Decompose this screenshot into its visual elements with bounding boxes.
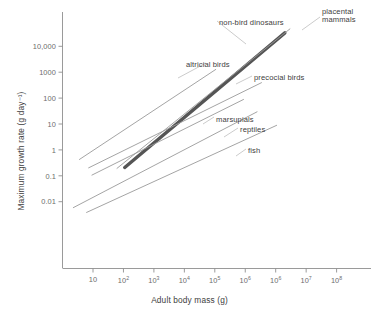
y-tick-label: 100 — [43, 94, 56, 103]
series-line — [73, 112, 257, 208]
series-line — [125, 33, 285, 168]
label-leader-lines — [178, 17, 320, 156]
series-lines — [73, 29, 290, 213]
growth-rate-vs-body-mass-chart — [0, 0, 379, 318]
y-tick-label: 10,000 — [33, 42, 56, 51]
series-line — [117, 29, 291, 169]
label-leader-line — [236, 76, 252, 84]
series-label: fish — [248, 147, 260, 156]
x-axis-title: Adult body mass (g) — [0, 295, 379, 305]
series-label: mammals — [322, 16, 356, 25]
series-label: reptiles — [240, 126, 265, 135]
y-tick-label: 0.1 — [45, 172, 56, 181]
label-leader-line — [203, 117, 214, 124]
y-tick-label: 0.01 — [41, 197, 56, 206]
series-line — [92, 99, 244, 175]
series-line — [88, 83, 262, 168]
series-label: altricial birds — [186, 61, 230, 70]
y-tick-label: 1000 — [39, 68, 56, 77]
y-axis-title: Maximum growth rate (g day⁻¹) — [16, 76, 26, 226]
y-tick-label: 10 — [48, 120, 56, 129]
x-tick-marks — [93, 269, 337, 273]
series-label: non-bird dinosaurs — [219, 19, 284, 28]
series-label: marsupials — [216, 116, 254, 125]
label-leader-line — [224, 128, 238, 137]
label-leader-line — [302, 17, 320, 30]
x-tick-label: 108 — [317, 275, 357, 285]
series-line — [86, 125, 277, 212]
label-leader-line — [236, 149, 246, 156]
y-tick-label: 1 — [52, 146, 56, 155]
y-tick-marks — [59, 46, 63, 201]
series-label: precocial birds — [254, 74, 304, 83]
